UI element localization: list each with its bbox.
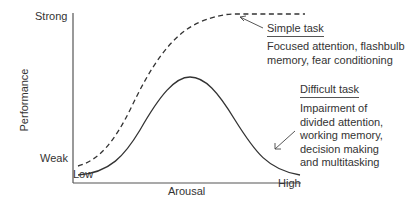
difficult-task-title: Difficult task xyxy=(300,83,359,98)
y-axis-title: Performance xyxy=(18,69,30,132)
simple-task-title: Simple task xyxy=(267,22,324,37)
difficult-task-arrow xyxy=(275,131,295,149)
simple-task-arrow xyxy=(240,17,263,28)
difficult-task-description: Impairment of divided attention, working… xyxy=(300,102,383,170)
simple-task-description: Focused attention, flashbulb memory, fea… xyxy=(267,40,405,67)
difficult-desc-line: divided attention, xyxy=(300,116,383,130)
difficult-desc-line: and multitasking xyxy=(300,156,383,170)
difficult-desc-line: Impairment of xyxy=(300,102,383,116)
x-right-label: High xyxy=(278,177,301,190)
x-left-label: Low xyxy=(73,168,93,181)
x-axis-title: Arousal xyxy=(168,185,205,198)
difficult-desc-line: working memory, xyxy=(300,129,383,143)
y-top-label: Strong xyxy=(35,10,67,23)
simple-desc-line: memory, fear conditioning xyxy=(267,54,405,68)
simple-desc-line: Focused attention, flashbulb xyxy=(267,40,405,54)
difficult-desc-line: decision making xyxy=(300,143,383,157)
difficult-task-curve xyxy=(78,77,300,175)
y-bottom-label: Weak xyxy=(40,152,68,165)
